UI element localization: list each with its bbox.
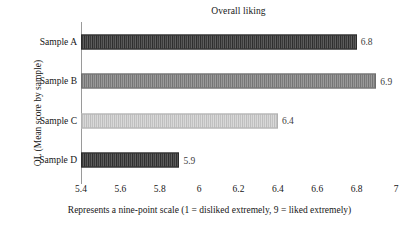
x-axis-caption: Represents a nine-point scale (1 = disli… xyxy=(0,205,419,215)
bar-sample-d[interactable]: 5.9 xyxy=(81,153,179,168)
x-tick-label: 5.6 xyxy=(114,184,126,194)
bar-sample-c[interactable]: 6.4 xyxy=(81,113,278,128)
x-axis: 5.45.65.866.26.46.66.87 xyxy=(81,180,396,200)
x-tick-label: 6.2 xyxy=(233,184,245,194)
y-axis-title: OL (Mean score by sample) xyxy=(33,28,43,198)
bar-value-label: 6.9 xyxy=(380,76,392,86)
category-label-sample-b: Sample B xyxy=(40,76,77,86)
bar-sample-a[interactable]: 6.8 xyxy=(81,34,357,49)
x-tick-label: 5.8 xyxy=(154,184,166,194)
x-tick-label: 6.8 xyxy=(351,184,363,194)
chart-figure: Overall liking OL (Mean score by sample)… xyxy=(0,0,419,230)
bar-value-label: 6.4 xyxy=(282,116,294,126)
x-tick-label: 6.4 xyxy=(272,184,284,194)
x-tick-label: 5.4 xyxy=(75,184,87,194)
category-label-sample-a: Sample A xyxy=(40,37,77,47)
x-tick-label: 6.6 xyxy=(311,184,323,194)
bar-sample-b[interactable]: 6.9 xyxy=(81,74,376,89)
bar-value-label: 5.9 xyxy=(183,155,195,165)
category-label-sample-c: Sample C xyxy=(40,116,77,126)
x-tick-label: 7 xyxy=(394,184,399,194)
category-label-sample-d: Sample D xyxy=(39,155,77,165)
bar-value-label: 6.8 xyxy=(361,37,373,47)
chart-title: Overall liking xyxy=(81,6,396,16)
plot-area: Sample A6.8Sample B6.9Sample C6.4Sample … xyxy=(81,22,396,180)
x-tick-label: 6 xyxy=(197,184,202,194)
